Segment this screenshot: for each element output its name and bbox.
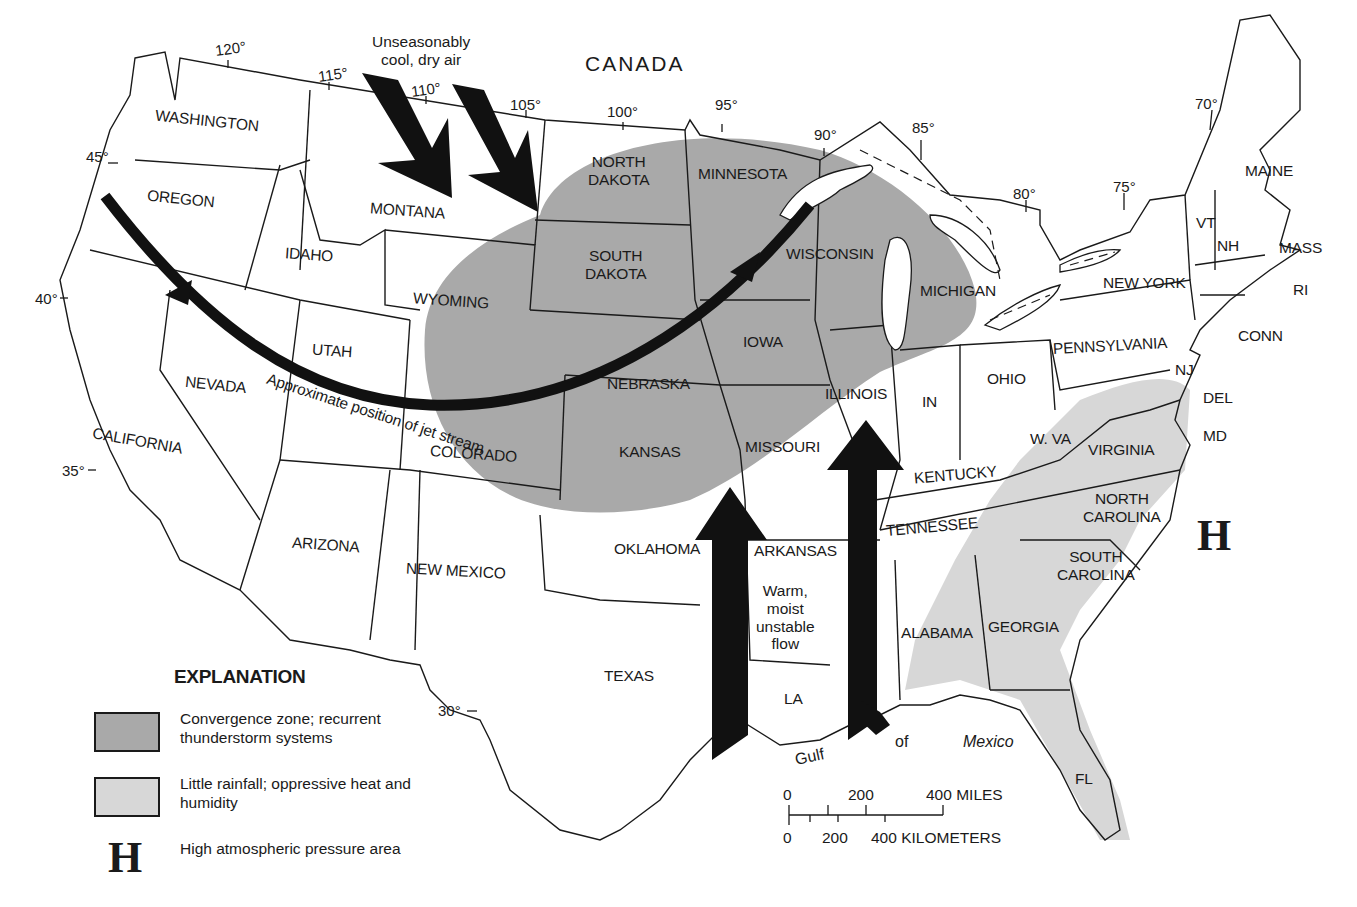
latitude-35: 35° [62,462,85,479]
state-label-texas: TEXAS [604,667,654,685]
state-label-new-york: NEW YORK [1103,274,1186,292]
state-label-wisconsin: WISCONSIN [786,245,874,263]
state-label-alabama: ALABAMA [901,624,973,642]
state-label-oklahoma: OKLAHOMA [614,540,700,558]
state-label-louisiana: LA [784,690,803,708]
state-label-south-carolina: SOUTH CAROLINA [1057,548,1135,584]
state-label-connecticut: CONN [1238,327,1283,345]
gulf-label-word3: Mexico [963,733,1014,751]
state-label-michigan: MICHIGAN [920,282,996,300]
north-carolina-line1: NORTH [1083,490,1161,508]
state-label-utah: UTAH [311,341,352,362]
north-dakota-line2: DAKOTA [588,171,649,189]
state-label-florida: FL [1075,770,1093,788]
south-dakota-line1: SOUTH [585,247,646,265]
longitude-85: 85° [912,119,935,136]
legend-text-little-rainfall: Little rainfall; oppressive heat and hum… [180,775,440,812]
gulf-label-word2: of [895,733,908,751]
scale-km-400: 400 KILOMETERS [871,829,1001,847]
cool-air-note: Unseasonably cool, dry air [372,33,470,69]
legend-title: EXPLANATION [174,666,305,688]
state-label-arkansas: ARKANSAS [754,542,837,560]
latitude-30: 30° [438,702,461,719]
warm-flow-note: Warm, moist unstable flow [756,582,815,653]
convergence-swatch [94,712,160,752]
high-pressure-legend-symbol: H [108,836,142,880]
scale-miles-0: 0 [783,786,792,804]
state-label-nebraska: NEBRASKA [607,375,690,393]
state-label-missouri: MISSOURI [745,438,820,456]
latitude-45: 45° [86,148,109,165]
state-label-ohio: OHIO [987,370,1026,388]
longitude-105: 105° [510,96,541,113]
state-label-south-dakota: SOUTH DAKOTA [585,247,646,283]
longitude-75: 75° [1113,178,1136,195]
state-label-rhode-island: RI [1293,281,1308,299]
state-label-new-jersey: NJ [1175,361,1194,379]
high-pressure-symbol: H [1197,514,1231,558]
legend-item-high-pressure: H High atmospheric pressure area [94,842,434,892]
scale-km-200: 200 [822,829,848,847]
legend-text-high-pressure: High atmospheric pressure area [180,840,440,859]
little-rainfall-swatch [94,777,160,817]
longitude-95: 95° [715,96,738,113]
state-label-delaware: DEL [1203,389,1233,407]
state-label-vermont: VT [1196,214,1215,232]
state-label-maryland: MD [1203,427,1227,445]
state-label-north-dakota: NORTH DAKOTA [588,153,649,189]
south-dakota-line2: DAKOTA [585,265,646,283]
warm-flow-line3: unstable [756,618,815,636]
state-label-virginia: VIRGINIA [1088,441,1154,459]
latitude-40: 40° [35,290,58,307]
state-label-maine: MAINE [1245,162,1293,180]
cool-air-arrows [362,73,538,212]
scale-miles-400: 400 MILES [926,786,1003,804]
legend-text-convergence: Convergence zone; recurrent thunderstorm… [180,710,440,747]
scale-km-0: 0 [783,829,792,847]
state-label-north-carolina: NORTH CAROLINA [1083,490,1161,526]
state-label-massachusetts: MASS [1279,239,1322,257]
state-label-minnesota: MINNESOTA [698,165,787,183]
longitude-90: 90° [814,126,837,143]
state-label-indiana: IN [922,393,937,411]
legend-item-little-rainfall: Little rainfall; oppressive heat and hum… [94,777,434,827]
state-label-kansas: KANSAS [619,443,681,461]
state-label-west-virginia: W. VA [1030,430,1071,448]
legend-item-convergence: Convergence zone; recurrent thunderstorm… [94,712,434,762]
cool-air-note-line1: Unseasonably [372,33,470,51]
longitude-70: 70° [1195,95,1218,112]
north-carolina-line2: CAROLINA [1083,508,1161,526]
longitude-100: 100° [607,103,638,120]
country-label-canada: CANADA [585,52,685,76]
state-label-idaho: IDAHO [284,244,333,265]
longitude-80: 80° [1013,185,1036,202]
scale-bar [789,805,943,825]
cool-air-note-line2: cool, dry air [372,51,470,69]
warm-flow-line1: Warm, [756,582,815,600]
warm-flow-line4: flow [756,635,815,653]
south-carolina-line1: SOUTH [1057,548,1135,566]
state-label-illinois: ILLINOIS [825,385,887,403]
state-label-georgia: GEORGIA [988,618,1059,636]
state-label-new-hampshire: NH [1217,237,1239,255]
north-dakota-line1: NORTH [588,153,649,171]
south-carolina-line2: CAROLINA [1057,566,1135,584]
state-label-iowa: IOWA [743,333,783,351]
warm-flow-line2: moist [756,600,815,618]
scale-miles-200: 200 [848,786,874,804]
